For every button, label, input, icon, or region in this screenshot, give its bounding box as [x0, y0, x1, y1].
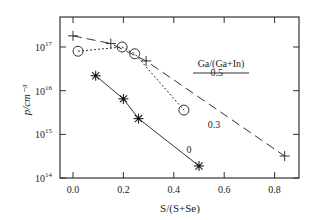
chart: 0.00.20.40.60.810141015101610170.50.30 S…	[0, 0, 318, 220]
series-annotation: 0.3	[208, 119, 221, 130]
star-marker	[194, 161, 204, 171]
star-marker	[91, 71, 101, 81]
plus-marker	[106, 39, 116, 49]
axis-ticks	[60, 17, 299, 178]
plus-marker	[141, 56, 151, 66]
series-0-5	[68, 31, 290, 161]
data-series	[68, 31, 290, 171]
plus-marker	[68, 31, 78, 41]
y-tick-label: 1015	[35, 127, 53, 140]
y-tick-label: 1016	[35, 84, 53, 97]
x-tick-label: 0.2	[117, 184, 130, 195]
y-tick-label: 1014	[35, 171, 53, 184]
legend-title: Ga/(Ga+In)	[198, 58, 245, 70]
x-axis-label: S/(S+Se)	[160, 202, 200, 215]
star-marker	[118, 94, 128, 104]
series-0	[91, 71, 204, 171]
plot-frame	[60, 17, 299, 178]
x-tick-label: 0.0	[67, 184, 80, 195]
x-tick-label: 0.6	[218, 184, 231, 195]
y-axis-label: p/cm⁻³	[20, 84, 32, 116]
x-tick-label: 0.4	[168, 184, 181, 195]
series-annotation: 0	[186, 144, 191, 155]
y-tick-label: 1017	[35, 40, 53, 53]
x-tick-label: 0.8	[268, 184, 281, 195]
plus-marker	[280, 151, 290, 161]
star-marker	[134, 114, 144, 124]
